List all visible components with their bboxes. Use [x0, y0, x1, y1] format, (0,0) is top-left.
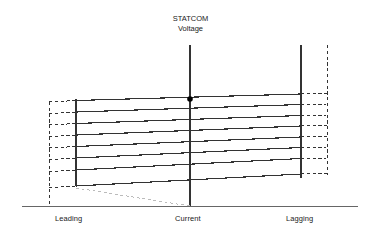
- axis-label-lagging: Lagging: [286, 214, 313, 224]
- slope-3-dash-right: [301, 115, 327, 116]
- chart-title: STATCOM Voltage: [0, 14, 381, 33]
- operating-point-group: [187, 96, 193, 102]
- slope-line-8: [76, 174, 301, 186]
- title-line-voltage: Voltage: [0, 24, 381, 34]
- axis-label-leading: Leading: [55, 214, 82, 224]
- slope-5-dash-left: [49, 147, 76, 149]
- slope-line-5: [76, 137, 301, 147]
- slope-5-dash-right: [301, 137, 327, 138]
- slope-line-7: [76, 159, 301, 171]
- statcom-vi-characteristic-diagram: STATCOM Voltage Leading Current Lagging: [0, 0, 381, 240]
- axis-label-current: Current: [175, 214, 201, 224]
- slope-7-dash-right: [301, 158, 327, 159]
- slope-lines-group: [76, 94, 301, 186]
- slope-2-dash-right: [301, 104, 327, 105]
- slope-line-3: [76, 116, 301, 124]
- slope-4-dash-right: [301, 126, 327, 127]
- slope-dash-extensions-group: [49, 94, 327, 188]
- slope-8-dash-left: [49, 186, 76, 188]
- slope-6-dash-right: [301, 147, 327, 148]
- slope-8-dash-right: [301, 174, 327, 175]
- slope-7-dash-left: [49, 170, 76, 172]
- diagram-canvas: [0, 0, 381, 240]
- boundary-lines-group: [49, 45, 327, 206]
- slope-3-dash-left: [49, 124, 76, 126]
- slope-2-dash-left: [49, 112, 76, 114]
- slope-line-4: [76, 126, 301, 135]
- slope-line-2: [76, 105, 301, 113]
- slope-6-dash-left: [49, 158, 76, 160]
- slope-1-dash-left: [49, 101, 76, 103]
- slope-line-6: [76, 148, 301, 159]
- slope-4-dash-left: [49, 135, 76, 137]
- lower-limit-guide-group: [76, 188, 190, 206]
- operating-point-marker: [187, 96, 193, 102]
- title-line-statcom: STATCOM: [0, 14, 381, 24]
- lower-limit-guide-line: [76, 188, 190, 206]
- slope-1-dash-right: [301, 94, 327, 95]
